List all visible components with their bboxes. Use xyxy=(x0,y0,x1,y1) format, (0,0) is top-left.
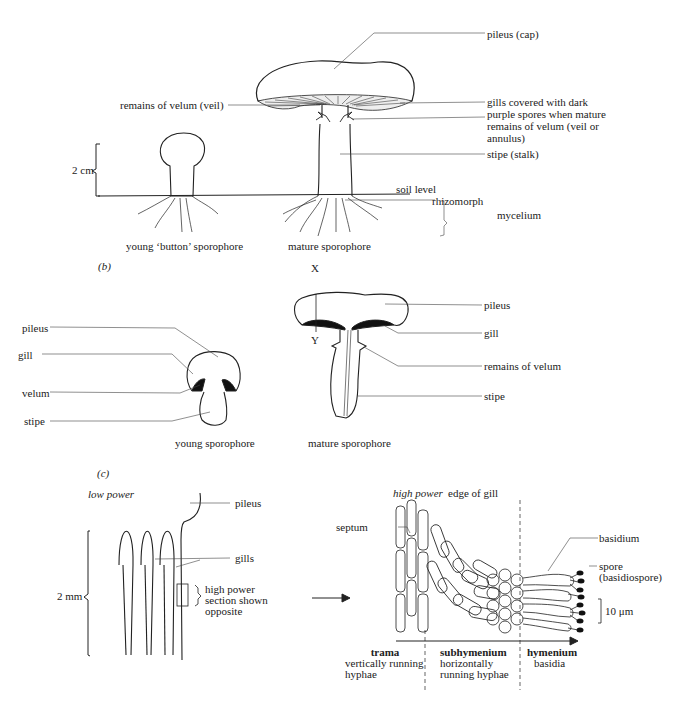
label-c-pileus: pileus xyxy=(235,497,261,509)
young-sporophore-b xyxy=(187,352,240,426)
mature-mushroom-a xyxy=(257,61,415,236)
gill-low-power xyxy=(119,493,200,660)
label-trama-desc2: hyphae xyxy=(345,668,377,680)
label-hymenium-desc: basidia xyxy=(534,657,565,669)
label-mycelium: mycelium xyxy=(497,209,541,221)
label-soil-level: soil level xyxy=(396,183,436,195)
mature-sporophore-b xyxy=(295,292,409,418)
label-mature-stipe: stipe xyxy=(484,390,505,402)
label-stipe-stalk: stipe (stalk) xyxy=(487,148,539,160)
label-rhizomorph: rhizomorph xyxy=(432,195,483,207)
scale-2cm: 2 cm xyxy=(72,164,94,176)
label-remains-of-velum: remains of velum xyxy=(484,360,561,372)
label-basidiospore: (basidiospore) xyxy=(599,571,662,583)
caption-young-sporophore: young sporophore xyxy=(175,437,255,449)
label-septum: septum xyxy=(336,521,368,533)
label-young-stipe: stipe xyxy=(24,415,45,427)
label-young-pileus: pileus xyxy=(22,322,48,334)
gill-high-power-section xyxy=(396,500,586,633)
label-young-gill: gill xyxy=(18,349,33,361)
label-pileus-cap: pileus (cap) xyxy=(487,28,539,40)
label-remains-velum-veil: remains of velum (veil) xyxy=(120,99,224,111)
label-high-power: high power xyxy=(393,487,443,499)
label-edge-of-gill: edge of gill xyxy=(448,487,498,499)
label-annulus-line2: annulus) xyxy=(487,132,525,144)
label-gills: gills xyxy=(235,552,254,564)
label-hp-line3: opposite xyxy=(205,605,242,617)
young-button-a xyxy=(138,133,218,232)
label-mature-pileus: pileus xyxy=(484,299,510,311)
label-mature-gill: gill xyxy=(484,327,499,339)
scale-10um: 10 μm xyxy=(605,605,633,617)
scale-2mm: 2 mm xyxy=(57,590,82,602)
axis-y-label: Y xyxy=(311,334,319,346)
label-sub-desc2: running hyphae xyxy=(440,668,509,680)
label-gills-line1: gills covered with dark xyxy=(487,96,588,108)
label-basidium: basidium xyxy=(599,532,639,544)
caption-mature-sporophore: mature sporophore xyxy=(308,437,391,449)
label-young-velum: velum xyxy=(22,387,50,399)
label-gills-line2: purple spores when mature xyxy=(487,108,606,120)
label-low-power: low power xyxy=(88,488,134,500)
label-annulus-line1: remains of velum (veil or xyxy=(487,120,599,132)
caption-mature-a: mature sporophore xyxy=(288,240,371,252)
axis-x-label: X xyxy=(311,262,319,274)
panel-tag-b: (b) xyxy=(98,260,111,272)
caption-young-button: young ‘button’ sporophore xyxy=(126,240,243,252)
panel-tag-c: (c) xyxy=(97,467,109,479)
